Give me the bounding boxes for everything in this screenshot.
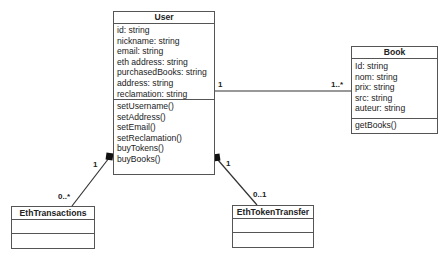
method: setUsername() xyxy=(117,101,211,112)
method: setEmail() xyxy=(117,122,211,133)
class-eth-token-transfer-methods xyxy=(233,233,313,247)
attribute: Id: string xyxy=(355,61,434,72)
composition-line-user-ethtokentransfer xyxy=(218,160,257,205)
class-user-title: User xyxy=(114,12,214,24)
multiplicity-user-ethtokentransfer-target: 0..1 xyxy=(253,190,266,199)
multiplicity-user-ethtokentransfer-source: 1 xyxy=(226,159,230,168)
method: buyBooks() xyxy=(117,154,211,165)
class-eth-transactions-methods xyxy=(12,234,94,248)
attribute: nom: string xyxy=(355,72,434,83)
method: setAddress() xyxy=(117,112,211,123)
method: setReclamation() xyxy=(117,133,211,144)
multiplicity-user-book-target: 1..* xyxy=(331,80,343,89)
attribute: prix: string xyxy=(355,82,434,93)
attribute: src: string xyxy=(355,93,434,104)
class-eth-token-transfer-title: EthTokenTransfer xyxy=(233,206,313,219)
class-eth-token-transfer[interactable]: EthTokenTransfer xyxy=(232,205,314,248)
composition-line-user-ethtransactions xyxy=(72,158,109,206)
attribute: auteur: string xyxy=(355,103,434,114)
attribute: address: string xyxy=(117,78,211,89)
class-book-methods: getBooks() xyxy=(352,119,437,132)
class-eth-transactions[interactable]: EthTransactions xyxy=(11,206,95,249)
class-book-title: Book xyxy=(352,47,437,59)
class-eth-transactions-title: EthTransactions xyxy=(12,207,94,220)
attribute: reclamation: string xyxy=(117,89,211,100)
class-user-attributes: id: string nickname: string email: strin… xyxy=(114,24,214,100)
class-eth-transactions-attributes xyxy=(12,220,94,234)
multiplicity-user-ethtransactions-source: 1 xyxy=(93,160,97,169)
class-user[interactable]: User id: string nickname: string email: … xyxy=(113,11,215,175)
multiplicity-user-book-source: 1 xyxy=(218,80,222,89)
uml-class-diagram: User id: string nickname: string email: … xyxy=(0,0,445,259)
class-user-methods: setUsername() setAddress() setEmail() se… xyxy=(114,100,214,166)
method: getBooks() xyxy=(355,120,434,131)
attribute: id: string xyxy=(117,25,211,36)
method: buyTokens() xyxy=(117,143,211,154)
attribute: purchasedBooks: string xyxy=(117,67,211,78)
attribute: eth address: string xyxy=(117,57,211,68)
class-book[interactable]: Book Id: string nom: string prix: string… xyxy=(351,46,438,134)
class-eth-token-transfer-attributes xyxy=(233,219,313,233)
attribute: nickname: string xyxy=(117,36,211,47)
class-book-attributes: Id: string nom: string prix: string src:… xyxy=(352,59,437,119)
attribute: email: string xyxy=(117,46,211,57)
multiplicity-user-ethtransactions-target: 0..* xyxy=(58,192,70,201)
